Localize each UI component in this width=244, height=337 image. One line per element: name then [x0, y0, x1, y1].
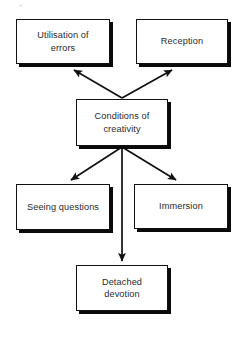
edge-conditions-to-reception	[122, 70, 172, 98]
edge-conditions-to-seeing-questions	[71, 147, 122, 180]
edge-conditions-to-utilisation-of-errors	[74, 70, 122, 98]
node-label: Conditions of creativity	[91, 110, 154, 134]
node-label: Reception	[157, 35, 207, 47]
node-utilisation-of-errors[interactable]: Utilisation of errors	[16, 19, 110, 64]
node-detached-devotion[interactable]: Detached devotion	[76, 265, 168, 311]
node-label: Utilisation of errors	[33, 29, 92, 53]
node-seeing-questions[interactable]: Seeing questions	[16, 184, 110, 230]
node-label: Immersion	[155, 200, 207, 212]
node-immersion[interactable]: Immersion	[134, 184, 228, 229]
diagram-canvas: Utilisation of errors Reception Conditio…	[0, 0, 244, 337]
edge-conditions-to-immersion	[122, 147, 176, 180]
node-conditions-of-creativity[interactable]: Conditions of creativity	[76, 99, 168, 146]
node-reception[interactable]: Reception	[136, 19, 228, 64]
node-label: Detached devotion	[98, 276, 146, 300]
node-label: Seeing questions	[23, 201, 103, 213]
